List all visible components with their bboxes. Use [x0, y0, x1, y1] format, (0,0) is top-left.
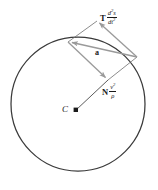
normal-fraction: v2 ρ: [109, 84, 116, 100]
normal-component-label: N v2 ρ: [102, 84, 116, 100]
main-circle: [11, 37, 145, 171]
normal-numerator: v2: [109, 84, 116, 91]
figure-canvas: [0, 0, 158, 190]
vector-normal-arrow: [68, 42, 106, 78]
tangential-denominator-exponent: 2: [113, 17, 115, 22]
acceleration-decomposition-figure: C a T d2s dt2 N v2 ρ: [0, 0, 158, 190]
normal-denominator-rho: ρ: [110, 93, 115, 100]
normal-numerator-exponent: 2: [113, 82, 115, 87]
tangential-component-label: T d2s dt2: [100, 10, 117, 26]
vector-a-label: a: [95, 49, 99, 57]
center-point-label: C: [62, 105, 68, 114]
tangential-denominator: dt2: [107, 19, 116, 26]
tangential-numerator-s: s: [113, 9, 116, 16]
tangential-vector-symbol: T: [100, 14, 106, 23]
parallelogram-edge-bottom: [108, 57, 137, 80]
normal-vector-symbol: N: [102, 88, 108, 97]
vector-tangential-arrow: [100, 23, 138, 57]
center-point-dot: [74, 108, 78, 112]
tangential-fraction: d2s dt2: [107, 10, 117, 26]
